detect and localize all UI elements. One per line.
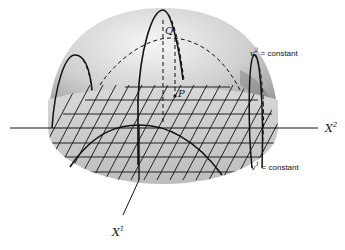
v1-constant-label: v1 = constant xyxy=(251,160,299,172)
hemisphere-diagram: Q P X2 X1 v2 = constant v1 = constant xyxy=(0,0,345,250)
x1-axis xyxy=(123,180,139,215)
x2-axis-label: X2 xyxy=(324,121,338,135)
point-p-label: P xyxy=(177,88,185,99)
base-plane xyxy=(48,88,278,184)
x1-axis-label: X1 xyxy=(111,225,124,239)
point-p xyxy=(173,94,176,97)
point-q-label: Q xyxy=(165,25,173,36)
